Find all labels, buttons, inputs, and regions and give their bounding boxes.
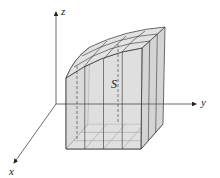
z-axis-label: z — [61, 6, 65, 17]
solid-region-diagram — [0, 0, 220, 178]
x-axis — [14, 104, 56, 163]
y-axis-label: y — [201, 97, 206, 108]
surface-label: S — [111, 78, 117, 90]
x-axis-label: x — [9, 166, 14, 177]
